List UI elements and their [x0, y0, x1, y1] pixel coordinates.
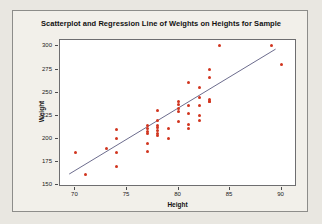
y-tick-mark [55, 92, 58, 93]
y-tick-label: 200 [13, 135, 52, 141]
x-tick-mark [229, 187, 230, 190]
data-point [167, 127, 170, 130]
data-point [218, 44, 221, 47]
y-tick-mark [55, 138, 58, 139]
data-point [187, 127, 190, 130]
data-point [187, 112, 190, 115]
data-point [187, 104, 190, 107]
data-point [198, 114, 201, 117]
chart-title: Scatterplot and Regression Line of Weigh… [13, 19, 309, 28]
y-tick-mark [55, 161, 58, 162]
data-point [198, 104, 201, 107]
x-tick-label: 70 [71, 191, 78, 197]
y-tick-mark [55, 45, 58, 46]
data-point [115, 128, 118, 131]
data-point [105, 147, 108, 150]
y-tick-label: 250 [13, 89, 52, 95]
y-tick-label: 175 [13, 158, 52, 164]
data-point [74, 151, 77, 154]
data-point [115, 165, 118, 168]
y-tick-label: 275 [13, 66, 52, 72]
data-point [156, 109, 159, 112]
data-point [187, 123, 190, 126]
data-point [280, 63, 283, 66]
data-point [198, 119, 201, 122]
y-tick-label: 300 [13, 42, 52, 48]
x-tick-label: 85 [226, 191, 233, 197]
data-point [115, 137, 118, 140]
data-point [167, 137, 170, 140]
y-tick-mark [55, 184, 58, 185]
x-tick-mark [281, 187, 282, 190]
data-point [177, 103, 180, 106]
data-point [156, 119, 159, 122]
data-point [146, 132, 149, 135]
data-point [146, 150, 149, 153]
data-point [84, 173, 87, 176]
x-tick-label: 75 [123, 191, 130, 197]
data-point [198, 86, 201, 89]
figure-frame: Scatterplot and Regression Line of Weigh… [12, 10, 308, 212]
x-tick-label: 90 [277, 191, 284, 197]
x-tick-label: 80 [174, 191, 181, 197]
x-tick-mark [74, 187, 75, 190]
y-tick-label: 225 [13, 112, 52, 118]
data-point [208, 76, 211, 79]
y-tick-mark [55, 115, 58, 116]
data-point [198, 96, 201, 99]
data-point [177, 110, 180, 113]
x-tick-mark [126, 187, 127, 190]
y-tick-mark [55, 69, 58, 70]
x-tick-mark [178, 187, 179, 190]
data-point [208, 68, 211, 71]
plot-area [59, 39, 296, 186]
data-point [156, 134, 159, 137]
data-point [187, 81, 190, 84]
data-point [177, 120, 180, 123]
data-point [208, 100, 211, 103]
data-point [115, 151, 118, 154]
data-point [270, 44, 273, 47]
data-point [146, 142, 149, 145]
x-axis-title: Height [59, 201, 296, 208]
y-tick-label: 150 [13, 181, 52, 187]
scatter-points [60, 40, 295, 185]
